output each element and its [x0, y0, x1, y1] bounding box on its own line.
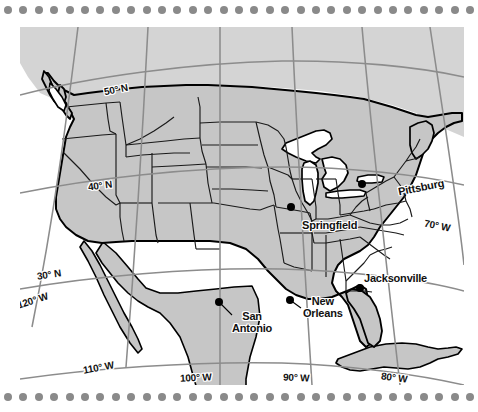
- northeast-coast: [410, 121, 434, 159]
- border-dot: [204, 393, 212, 401]
- city-label-new-orleans-line2: Orleans: [303, 308, 343, 320]
- border-dot: [35, 393, 43, 401]
- border-dot: [435, 393, 443, 401]
- border-dot: [158, 393, 166, 401]
- border-dot: [189, 6, 197, 14]
- border-dot: [112, 6, 120, 14]
- border-dot: [235, 6, 243, 14]
- border-dot: [66, 393, 74, 401]
- border-dot: [250, 6, 258, 14]
- city-dot-new-orleans: [286, 296, 294, 304]
- city-label-san-antonio-line2: Antonio: [232, 323, 272, 335]
- border-dot: [81, 393, 89, 401]
- border-dot: [173, 6, 181, 14]
- dotted-border-bottom: [0, 392, 478, 404]
- border-dot: [343, 6, 351, 14]
- border-dot: [327, 6, 335, 14]
- border-dot: [19, 393, 27, 401]
- border-dot: [358, 393, 366, 401]
- city-label-jacksonville: Jacksonville: [364, 273, 427, 285]
- border-dot: [266, 6, 274, 14]
- border-dot: [81, 6, 89, 14]
- border-dot: [19, 6, 27, 14]
- city-label-new-orleans-line1: New: [303, 296, 343, 308]
- city-label-san-antonio-line1: San: [232, 311, 272, 323]
- border-dot: [343, 393, 351, 401]
- city-dot-san-antonio: [215, 298, 223, 306]
- border-dot: [4, 393, 12, 401]
- border-dot: [127, 393, 135, 401]
- map-canvas[interactable]: 50° N 40° N 30° N 120° W 110° W 100° W 9…: [20, 27, 464, 385]
- border-dot: [389, 393, 397, 401]
- border-dot: [297, 6, 305, 14]
- border-dot: [266, 393, 274, 401]
- border-dot: [127, 6, 135, 14]
- border-dot: [374, 6, 382, 14]
- border-dot: [66, 6, 74, 14]
- border-dot: [281, 6, 289, 14]
- border-dot: [158, 6, 166, 14]
- city-dot-jacksonville: [356, 284, 364, 292]
- city-dot-pittsburg: [358, 180, 366, 188]
- border-dot: [327, 393, 335, 401]
- border-dot: [96, 393, 104, 401]
- border-dot: [451, 6, 459, 14]
- city-label-springfield: Springfield: [302, 220, 357, 232]
- border-dot: [250, 393, 258, 401]
- border-dot: [35, 6, 43, 14]
- border-dot: [220, 393, 228, 401]
- city-label-san-antonio: San Antonio: [232, 311, 272, 334]
- border-dot: [189, 393, 197, 401]
- border-dot: [281, 393, 289, 401]
- border-dot: [143, 6, 151, 14]
- border-dot: [112, 393, 120, 401]
- cuba-landmass: [336, 343, 462, 371]
- border-dot: [204, 6, 212, 14]
- border-dot: [297, 393, 305, 401]
- border-dot: [220, 6, 228, 14]
- border-dot: [435, 6, 443, 14]
- graticule-label-100w: 100° W: [180, 372, 212, 384]
- border-dot: [404, 6, 412, 14]
- border-dot: [96, 6, 104, 14]
- city-dot-springfield: [287, 203, 295, 211]
- border-dot: [173, 393, 181, 401]
- border-dot: [420, 6, 428, 14]
- border-dot: [50, 6, 58, 14]
- city-label-new-orleans: New Orleans: [303, 296, 343, 319]
- border-dot: [312, 6, 320, 14]
- border-dot: [358, 6, 366, 14]
- border-dot: [235, 393, 243, 401]
- lake-erie: [326, 190, 366, 198]
- border-dot: [50, 393, 58, 401]
- map-page: 50° N 40° N 30° N 120° W 110° W 100° W 9…: [0, 0, 478, 412]
- border-dot: [4, 6, 12, 14]
- border-dot: [312, 393, 320, 401]
- border-dot: [389, 6, 397, 14]
- border-dot: [466, 393, 474, 401]
- border-dot: [374, 393, 382, 401]
- dotted-border-top: [0, 5, 478, 17]
- border-dot: [451, 393, 459, 401]
- border-dot: [420, 393, 428, 401]
- graticule-label-90w: 90° W: [283, 373, 310, 384]
- border-dot: [404, 393, 412, 401]
- border-dot: [466, 6, 474, 14]
- border-dot: [143, 393, 151, 401]
